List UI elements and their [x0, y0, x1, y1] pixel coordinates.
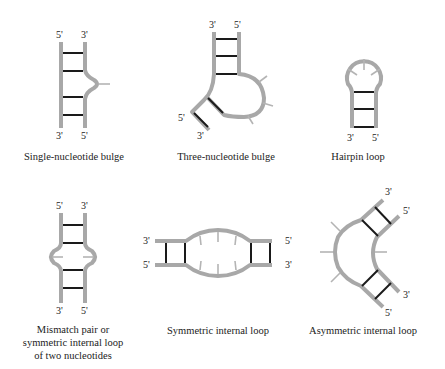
top-strand	[155, 230, 272, 241]
caption-line: symmetric internal loop	[8, 336, 138, 349]
right-strand	[85, 213, 95, 303]
end-label: 5'	[81, 305, 88, 316]
right-strand-with-bulge	[85, 42, 97, 128]
outer-strand	[335, 200, 383, 307]
panel-hairpin-loop: 3' 5'	[347, 59, 381, 143]
base-pair	[362, 270, 378, 286]
end-label: 5'	[372, 132, 379, 143]
bottom-strand	[155, 265, 272, 276]
unpaired-nucleotide	[200, 261, 201, 270]
base-pair	[194, 113, 208, 127]
end-label: 5'	[178, 112, 185, 123]
base-pair	[362, 220, 378, 236]
end-label: 5'	[234, 19, 241, 30]
base-pair	[208, 98, 223, 113]
caption-mismatch-pair: Mismatch pair or symmetric internal loop…	[8, 323, 138, 362]
end-label: 5'	[143, 259, 150, 270]
unpaired-nucleotide	[259, 76, 267, 82]
caption-hairpin-loop: Hairpin loop	[308, 150, 408, 163]
end-label: 3'	[403, 289, 410, 300]
panel-three-nucleotide-bulge: 3' 5' 5' 3'	[178, 19, 273, 141]
end-label: 5'	[81, 130, 88, 141]
panel-mismatch-pair: 5' 3' 3' 5'	[51, 200, 95, 316]
caption-asymmetric-internal-loop: Asymmetric internal loop	[299, 324, 427, 337]
end-label: 5'	[56, 200, 63, 211]
caption-single-nucleotide-bulge: Single-nucleotide bulge	[14, 150, 134, 163]
end-label: 5'	[385, 307, 392, 318]
end-label: 3'	[81, 29, 88, 40]
end-label: 3'	[385, 186, 392, 197]
end-label: 3'	[209, 19, 216, 30]
unpaired-nucleotide	[200, 236, 201, 245]
unpaired-nucleotide	[331, 222, 340, 231]
unpaired-nucleotide	[235, 261, 236, 270]
end-label: 3'	[285, 259, 292, 270]
rna-secondary-structure-figure: 5' 3' 3' 5' 3' 5' 5' 3' 3' 5'	[0, 0, 445, 369]
end-label: 3'	[81, 200, 88, 211]
base-pair	[375, 283, 391, 299]
end-label: 3'	[197, 130, 204, 141]
panel-single-nucleotide-bulge: 5' 3' 3' 5'	[56, 29, 110, 141]
end-label: 5'	[403, 205, 410, 216]
unpaired-nucleotide	[235, 236, 236, 245]
end-label: 3'	[143, 235, 150, 246]
end-label: 3'	[56, 305, 63, 316]
caption-three-nucleotide-bulge: Three-nucleotide bulge	[166, 150, 286, 163]
end-label: 3'	[56, 130, 63, 141]
caption-symmetric-internal-loop: Symmetric internal loop	[156, 324, 280, 337]
inner-strand	[373, 216, 399, 292]
end-label: 3'	[347, 132, 354, 143]
caption-line: Mismatch pair or	[8, 323, 138, 336]
unpaired-nucleotide	[331, 273, 340, 282]
base-pair	[375, 207, 391, 224]
end-label: 5'	[56, 29, 63, 40]
caption-line: of two nucleotides	[8, 349, 138, 362]
panel-asymmetric-internal-loop: 3' 5' 3' 5'	[320, 186, 410, 318]
end-label: 5'	[285, 235, 292, 246]
diagram-canvas: 5' 3' 3' 5' 3' 5' 5' 3' 3' 5'	[0, 0, 445, 369]
left-strand	[51, 213, 61, 303]
panel-symmetric-internal-loop: 3' 5' 5' 3'	[143, 230, 292, 276]
